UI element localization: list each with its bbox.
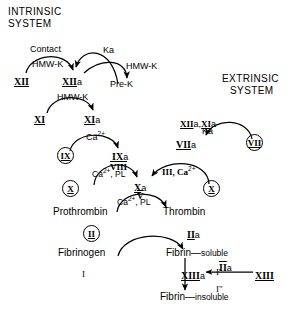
node-factor-7a: VIIa [176,135,196,151]
cofactor-hmwk-3: HMW-K [57,93,88,102]
extrinsic-title-line1: EXTRINSIC [222,73,279,85]
node-factor-2a: IIa [187,225,200,241]
hmwk-1-label: HMW-K [32,59,63,69]
node-prekallikrein: Pre-K [110,80,133,89]
cofactor-ka-1: Ka [103,46,114,55]
factor-11a-suffix: a [95,115,100,125]
factor-10-left-label: X [67,184,74,194]
cofactor-calcium-pl-1: Ca2+, PL [92,168,125,178]
fibrin-soluble-dash: — [191,247,201,258]
cofactor-hmwk-2: HMW-K [126,62,157,71]
factor-2a-suffix: a [195,230,200,240]
node-fibrin-soluble: Fibrin—soluble [166,248,228,258]
cofactor-hmwk-1: HMW-K [32,60,63,69]
factor-13-label: XIII [255,270,274,281]
calcium-pl-2-rest: , PL [135,197,150,207]
fibrinogen-roman-one: I [82,269,85,279]
factor-9-label: IX [60,151,70,161]
cofactor-tissue-factor-calcium: III, Ca2+ [162,166,195,177]
fibrin-insoluble-roman: I" [216,284,223,294]
intrinsic-title-line1: INTRINSIC [8,6,62,18]
calcium-ix-label: Ca [86,132,98,142]
extrinsic-system-title: EXTRINSIC SYSTEM [222,73,279,97]
fibrin-insoluble-word: Fibrin [160,291,185,302]
fibrin-soluble-word: Fibrin [166,247,191,258]
tissue-factor-charge: 2+ [188,165,195,172]
factor-11-label: XI [34,114,45,125]
cofactor-calcium-ix: Ca2+ [86,131,105,142]
node-factor-2-circled: II [83,225,100,242]
node-factor-12: XII [14,72,29,88]
fibrinogen-label: Fibrinogen [58,247,105,258]
factor-2a-label: II [187,229,195,240]
arrow-f12a-to-prek [84,62,127,78]
factor-10-right-label: X [208,184,215,194]
node-factor-7-circled: VII [246,134,263,151]
thrombin-label: Thrombin [163,206,205,217]
factor-7a-label: VII [176,139,191,150]
ka-1-label: Ka [103,45,114,55]
node-fibrinogen-number: I [82,264,85,280]
coagulation-cascade-diagram: INTRINSIC SYSTEM EXTRINSIC SYSTEM XII XI… [0,0,293,313]
hmwk-2-label: HMW-K [126,61,157,71]
prothrombin-label: Prothrombin [53,206,107,217]
factor-13a-suffix: a [200,271,205,281]
extrinsic-title-line2: SYSTEM [222,85,279,97]
factor-12a-suffix: a [77,77,82,87]
xiia-roman: XII [180,119,194,129]
node-factor-13: XIII [255,266,274,282]
node-fibrinogen: Fibrinogen [58,248,105,258]
xiia-suffix: a, [194,119,202,129]
iia-activator-roman: II [219,262,227,273]
iia-activator-suffix: a [227,263,232,273]
fibrin-insoluble-state: insoluble [195,292,229,302]
prekallikrein-label: Pre-K [110,79,133,89]
cofactor-calcium-pl-2: Ca2+, PL [117,196,150,206]
factor-13a-label: XIII [181,270,200,281]
cofactor-iia-activator: IIa [219,258,232,274]
hmwk-3-label: HMW-K [57,92,88,102]
node-factor-13a: XIIIa [181,266,205,282]
factor-12-label: XII [14,76,29,87]
fibrin-soluble-state: soluble [201,248,228,258]
node-factor-10-left-circled: X [62,180,79,197]
node-factor-12a: XIIa [62,72,82,88]
factor-11a-label: XI [84,114,95,125]
node-thrombin: Thrombin [163,207,205,217]
factor-2-label: II [88,229,95,239]
node-fibrin-insoluble-number: I" [216,279,223,295]
tissue-factor-label: III, Ca [162,167,188,177]
cofactor-ka-2: Ka [202,127,213,136]
cofactor-contact: Contact [30,45,61,54]
calcium-pl-2-label: Ca [117,197,128,207]
factor-7a-suffix: a [191,140,196,150]
calcium-ix-charge: 2+ [98,130,105,137]
node-factor-10-right-circled: X [203,180,220,197]
node-factor-11a: XIa [84,110,100,126]
calcium-pl-1-rest: , PL [110,169,125,179]
intrinsic-title-line2: SYSTEM [8,18,62,30]
intrinsic-system-title: INTRINSIC SYSTEM [8,6,62,30]
node-factor-11: XI [34,110,45,126]
calcium-pl-1-label: Ca [92,169,103,179]
fibrin-insoluble-dash: — [185,291,195,302]
factor-7-label: VII [248,138,262,148]
node-prothrombin: Prothrombin [53,207,107,217]
factor-12a-label: XII [62,76,77,87]
node-factor-9-circled: IX [57,147,74,164]
ka-2-label: Ka [202,126,213,136]
contact-label: Contact [30,44,61,54]
